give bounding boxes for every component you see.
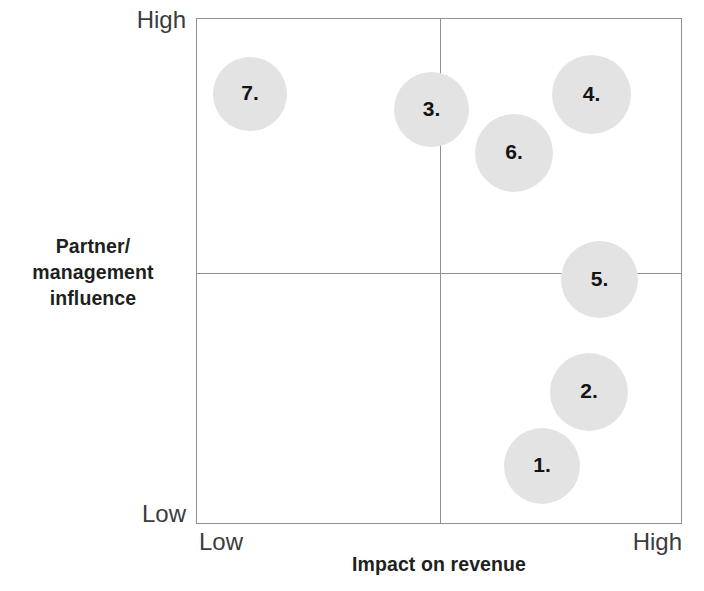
x-axis-tick-high: High [620,528,682,556]
x-axis-title: Impact on revenue [196,553,682,576]
bubble-3-label: 3. [423,97,441,121]
plot-area: 7. 3. 4. 6. 5. 2. 1. [196,18,682,524]
bubble-5-label: 5. [591,267,609,291]
bubble-6[interactable]: 6. [475,114,553,192]
y-axis-title-line-1: Partner/ [0,233,186,259]
bubble-7-label: 7. [241,81,259,105]
bubble-4-label: 4. [583,82,601,106]
bubble-1-label: 1. [533,453,551,477]
x-axis-tick-low: Low [199,528,243,556]
bubble-5[interactable]: 5. [561,241,638,318]
y-axis-title-line-3: influence [0,285,186,311]
y-axis-title: Partner/ management influence [0,233,186,311]
bubble-1[interactable]: 1. [504,428,580,504]
y-axis-tick-high: High [112,6,186,34]
bubble-6-label: 6. [505,140,523,164]
y-axis-tick-low: Low [112,500,186,528]
bubble-7[interactable]: 7. [213,57,287,131]
bubble-2-label: 2. [580,379,598,403]
bubble-3[interactable]: 3. [394,72,469,147]
quadrant-bubble-chart: High Low Partner/ management influence 7… [0,0,704,591]
y-axis-title-line-2: management [0,259,186,285]
bubble-4[interactable]: 4. [552,55,631,134]
bubble-2[interactable]: 2. [550,353,628,431]
